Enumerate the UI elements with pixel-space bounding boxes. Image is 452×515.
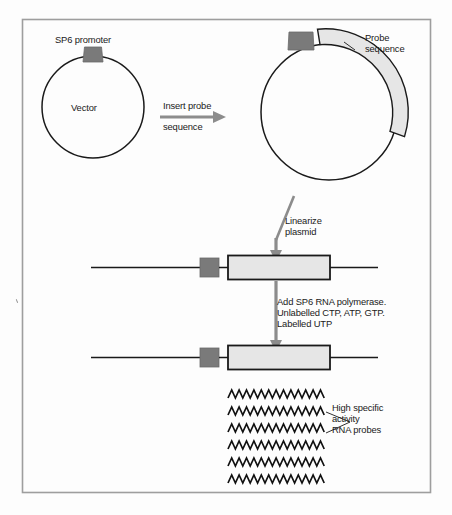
label-high-specific-activity-rna-probes: High specificactivityRNA probes (332, 402, 383, 436)
linear-construct-transcribing (91, 346, 378, 370)
rna-probe-strand (228, 407, 324, 415)
label-add-sp6-line2: Unlabelled CTP, ATP, GTP. (277, 307, 385, 318)
label-probe-sequence-line1: Probe (365, 32, 389, 43)
rna-probe-strand (228, 475, 324, 483)
label-add-sp6-polymerase: Add SP6 RNA polymerase.Unlabelled CTP, A… (277, 296, 386, 330)
rna-probe-strand (228, 424, 324, 432)
stray-mark (16, 299, 18, 303)
label-add-sp6-line3: Labelled UTP (277, 318, 332, 329)
sp6-promoter-box-linear-2 (200, 348, 219, 367)
linear-construct-template (91, 256, 378, 280)
label-probe-sequence: Probesequence (365, 32, 404, 54)
label-linearize-plasmid: Linearizeplasmid (285, 215, 322, 237)
sp6-promoter-box-linear (200, 258, 219, 277)
label-probe-sequence-line2: sequence (365, 43, 404, 54)
label-high-specific-line1: High specific (332, 402, 383, 413)
label-high-specific-line2: activity (332, 413, 359, 424)
rna-probe-strand (228, 390, 324, 398)
label-insert-probe-line1: Insert probe (163, 100, 211, 111)
label-vector: Vector (71, 102, 97, 113)
probe-sequence-box-linear-2 (228, 346, 330, 370)
rna-probe-strands (228, 390, 324, 483)
probe-sequence-box-linear (228, 256, 330, 280)
figure-container: SP6 promoter Vector Insert probe sequenc… (0, 0, 452, 515)
rna-probe-strand (228, 458, 324, 466)
label-sp6-promoter: SP6 promoter (55, 34, 111, 45)
rna-probe-strand (228, 441, 324, 449)
label-high-specific-line3: RNA probes (332, 424, 381, 435)
sp6-promoter-box-recombinant (288, 32, 314, 50)
label-linearize-line1: Linearize (285, 215, 322, 226)
diagram-canvas (0, 0, 452, 515)
label-insert-probe-line2: sequence (163, 121, 202, 132)
sp6-promoter-box-vector (83, 47, 103, 62)
label-linearize-line2: plasmid (285, 226, 316, 237)
label-add-sp6-line1: Add SP6 RNA polymerase. (277, 296, 386, 307)
